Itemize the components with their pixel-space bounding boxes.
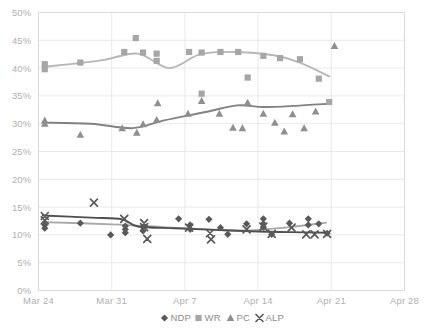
datapoint-ndp bbox=[107, 231, 114, 238]
series-wr bbox=[42, 35, 333, 105]
legend: NDPWRPCALP bbox=[161, 312, 284, 323]
legend-item-alp[interactable]: ALP bbox=[256, 312, 284, 323]
legend-marker-triangle-icon bbox=[227, 314, 235, 321]
datapoint-wr bbox=[297, 56, 303, 62]
datapoint-pc bbox=[280, 128, 288, 135]
x-tick-label: Apr 7 bbox=[173, 295, 197, 306]
datapoint-pc bbox=[289, 110, 297, 117]
x-tick-label: Apr 21 bbox=[317, 295, 346, 306]
datapoint-pc bbox=[198, 97, 206, 104]
y-tick-label: 5% bbox=[17, 257, 31, 268]
datapoint-pc bbox=[331, 42, 339, 49]
datapoint-pc bbox=[153, 116, 161, 123]
datapoint-layer bbox=[41, 35, 338, 243]
x-tick-label: Mar 31 bbox=[96, 295, 127, 306]
datapoint-pc bbox=[300, 124, 308, 131]
y-axis-tick-labels: 0%5%10%15%20%25%30%35%40%45%50% bbox=[12, 7, 32, 296]
x-tick-label: Apr 28 bbox=[390, 295, 419, 306]
datapoint-wr bbox=[199, 91, 205, 97]
y-tick-label: 35% bbox=[12, 90, 32, 101]
datapoint-pc bbox=[77, 131, 85, 138]
datapoint-wr bbox=[199, 49, 205, 55]
datapoint-wr bbox=[217, 49, 223, 55]
datapoint-ndp bbox=[205, 216, 212, 223]
datapoint-pc bbox=[271, 119, 279, 126]
y-tick-label: 45% bbox=[12, 35, 32, 46]
datapoint-wr bbox=[235, 49, 241, 55]
y-tick-label: 25% bbox=[12, 146, 32, 157]
legend-item-wr[interactable]: WR bbox=[195, 312, 220, 323]
x-tick-label: Apr 14 bbox=[243, 295, 272, 306]
datapoint-ndp bbox=[315, 220, 322, 227]
datapoint-pc bbox=[184, 110, 192, 117]
datapoint-wr bbox=[277, 55, 283, 61]
x-tick-label: Mar 24 bbox=[23, 295, 54, 306]
legend-label: ALP bbox=[266, 312, 285, 323]
datapoint-ndp bbox=[224, 231, 231, 238]
datapoint-wr bbox=[121, 49, 127, 55]
y-tick-label: 40% bbox=[12, 63, 32, 74]
trendline-wr bbox=[43, 52, 330, 77]
datapoint-pc bbox=[260, 110, 268, 117]
legend-item-pc[interactable]: PC bbox=[227, 312, 250, 323]
datapoint-pc bbox=[229, 124, 237, 131]
datapoint-wr bbox=[260, 53, 266, 59]
polling-chart: 0%5%10%15%20%25%30%35%40%45%50% Mar 24Ma… bbox=[0, 0, 437, 335]
datapoint-alp bbox=[144, 235, 151, 242]
legend-item-ndp[interactable]: NDP bbox=[161, 312, 191, 323]
datapoint-alp bbox=[90, 199, 97, 206]
legend-marker-square-icon bbox=[195, 315, 201, 321]
datapoint-wr bbox=[326, 99, 332, 105]
x-axis-tick-labels: Mar 24Mar 31Apr 7Apr 14Apr 21Apr 28 bbox=[23, 295, 419, 306]
datapoint-pc bbox=[312, 108, 320, 115]
datapoint-wr bbox=[133, 35, 139, 41]
y-tick-label: 50% bbox=[12, 7, 32, 18]
datapoint-ndp bbox=[175, 215, 182, 222]
chart-canvas: 0%5%10%15%20%25%30%35%40%45%50% Mar 24Ma… bbox=[0, 0, 437, 335]
y-tick-label: 15% bbox=[12, 202, 32, 213]
legend-label: PC bbox=[237, 312, 251, 323]
datapoint-wr bbox=[140, 49, 146, 55]
datapoint-ndp bbox=[77, 220, 84, 227]
y-tick-label: 30% bbox=[12, 118, 32, 129]
datapoint-wr bbox=[154, 58, 160, 64]
datapoint-wr bbox=[186, 49, 192, 55]
datapoint-wr bbox=[154, 51, 160, 57]
datapoint-pc bbox=[133, 129, 141, 136]
datapoint-ndp bbox=[305, 221, 312, 228]
legend-label: NDP bbox=[171, 312, 192, 323]
legend-label: WR bbox=[205, 312, 221, 323]
datapoint-pc bbox=[244, 99, 252, 106]
datapoint-wr bbox=[316, 76, 322, 82]
datapoint-pc bbox=[239, 124, 247, 131]
legend-marker-x-icon bbox=[256, 315, 263, 322]
datapoint-pc bbox=[154, 99, 162, 106]
y-tick-label: 10% bbox=[12, 229, 32, 240]
legend-marker-diamond-icon bbox=[161, 314, 168, 321]
trendline-layer bbox=[43, 52, 330, 233]
y-tick-label: 20% bbox=[12, 174, 32, 185]
datapoint-pc bbox=[216, 110, 224, 117]
datapoint-wr bbox=[245, 74, 251, 80]
datapoint-wr bbox=[42, 66, 48, 72]
datapoint-alp bbox=[208, 236, 215, 243]
series-alp bbox=[41, 199, 330, 243]
datapoint-wr bbox=[77, 59, 83, 65]
